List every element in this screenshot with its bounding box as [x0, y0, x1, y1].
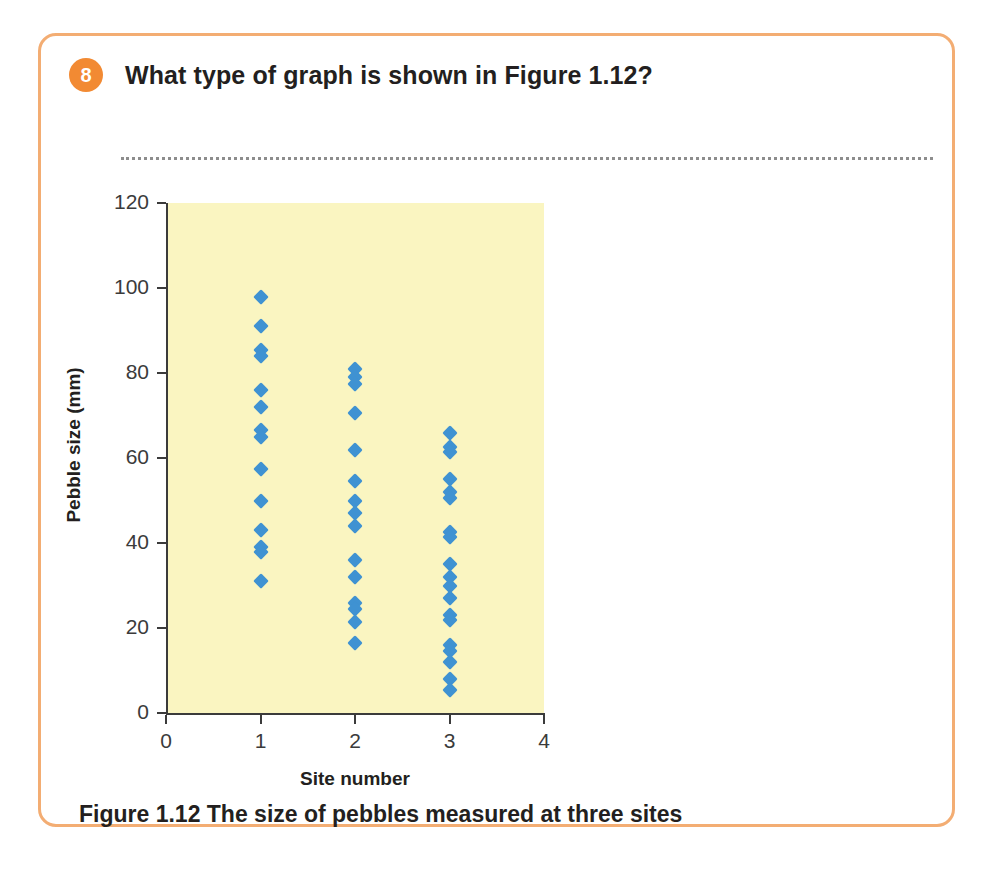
x-axis-title: Site number	[166, 768, 544, 790]
exercise-card: 8 What type of graph is shown in Figure …	[38, 33, 955, 827]
x-axis-tick-label: 2	[335, 729, 375, 753]
y-axis-tick-label: 20	[89, 615, 149, 639]
x-axis-tick	[354, 715, 356, 724]
x-axis-tick-label: 0	[146, 729, 186, 753]
x-axis-tick-label: 4	[524, 729, 564, 753]
y-axis-tick	[157, 627, 166, 629]
x-axis-tick-label: 1	[241, 729, 281, 753]
y-axis-tick	[157, 372, 166, 374]
y-axis-tick-label: 80	[89, 360, 149, 384]
pebble-size-scatter-chart: 02040608010012001234 Pebble size (mm) Si…	[41, 186, 958, 786]
answer-input-line[interactable]	[121, 154, 933, 160]
question-row: 8 What type of graph is shown in Figure …	[69, 58, 653, 92]
x-axis-tick	[449, 715, 451, 724]
y-axis-tick	[157, 457, 166, 459]
figure-caption: Figure 1.12 The size of pebbles measured…	[79, 801, 682, 828]
y-axis-tick	[157, 287, 166, 289]
y-axis-line	[166, 203, 168, 714]
y-axis-tick-label: 60	[89, 445, 149, 469]
y-axis-title: Pebble size (mm)	[63, 320, 85, 570]
y-axis-tick	[157, 202, 166, 204]
x-axis-tick	[543, 715, 545, 724]
question-text: What type of graph is shown in Figure 1.…	[125, 61, 653, 90]
x-axis-tick	[165, 715, 167, 724]
x-axis-tick	[260, 715, 262, 724]
y-axis-tick-label: 100	[89, 275, 149, 299]
figure-block: 02040608010012001234 Pebble size (mm) Si…	[41, 186, 952, 826]
x-axis-tick-label: 3	[430, 729, 470, 753]
y-axis-tick	[157, 542, 166, 544]
y-axis-tick-label: 120	[89, 190, 149, 214]
y-axis-tick-label: 0	[89, 700, 149, 724]
question-number-badge: 8	[69, 58, 103, 92]
y-axis-tick-label: 40	[89, 530, 149, 554]
y-axis-tick	[157, 712, 166, 714]
